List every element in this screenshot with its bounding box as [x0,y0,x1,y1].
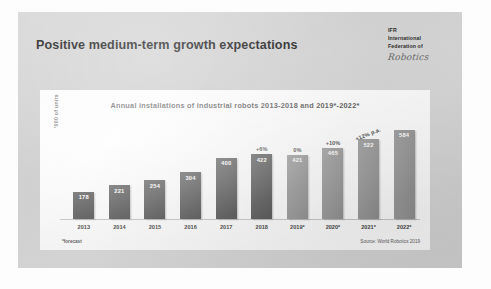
chart-bar-column: +6%4222018 [244,124,280,219]
ifr-logo: IFR International Federation of Robotics [388,26,450,65]
chart-bar: 584 [394,130,415,219]
chart-bar-column: 2212014 [102,124,138,219]
chart-bar: 465 [322,148,343,219]
chart-card: Annual installations of industrial robot… [40,90,430,250]
chart-x-tick-label: 2016 [184,224,196,230]
chart-x-tick-label: 2014 [113,224,125,230]
chart-bar: 178 [73,192,94,219]
chart-y-axis-label: '000 of units [53,94,59,128]
chart-source: Source: World Robotics 2019 [360,239,420,244]
chart-x-tick-label: 2022* [397,224,412,230]
chart-bar-column: +10%4652020* [315,124,351,219]
chart-bar-column: 3042016 [173,124,209,219]
chart-bar: 400 [216,158,237,219]
chart-bar: 421 [287,155,308,220]
chart-x-tick-label: 2019* [290,224,305,230]
chart-bar-column: 5842022* [386,124,422,219]
chart-title: Annual installations of industrial robot… [40,101,430,110]
logo-line-international: International [388,35,421,41]
chart-bar-column: 0%4212019* [280,124,316,219]
logo-line-robotics: Robotics [387,51,450,65]
chart-footnote: *forecast [62,239,82,244]
chart-x-tick-label: 2021* [361,224,376,230]
chart-growth-annotation: 0% [293,147,301,153]
chart-growth-annotation: +6% [256,146,267,152]
chart-x-tick-label: 2018 [256,224,268,230]
chart-bar-column: 4002017 [208,124,244,219]
chart-growth-annotation: +10% [326,140,340,146]
chart-bar: 254 [144,180,165,219]
chart-bar: 304 [180,172,201,219]
chart-x-tick-label: 2013 [78,224,90,230]
logo-line-ifr: IFR [388,27,397,33]
chart-bar: 522 [358,139,379,219]
chart-bar: 221 [109,185,130,219]
chart-x-tick-label: 2015 [149,224,161,230]
logo-line-federation: Federation of [388,43,423,49]
chart-bar: 422 [251,154,272,219]
chart-bar-column: 1782013 [66,124,102,219]
screenshot-page: Positive medium-term growth expectations… [0,0,491,289]
chart-plot-area: 17820132212014254201530420164002017+6%42… [66,124,422,219]
presentation-slide: Positive medium-term growth expectations… [18,12,462,268]
chart-bar-column: 2542015 [137,124,173,219]
chart-x-tick-label: 2020* [326,224,341,230]
chart-x-tick-label: 2017 [220,224,232,230]
chart-x-axis-line [60,219,420,220]
page-title: Positive medium-term growth expectations [36,38,298,52]
chart-bar-column: +12% p.a.5222021* [351,124,387,219]
